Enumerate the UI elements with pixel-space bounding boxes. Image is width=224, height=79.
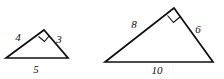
small-triangle-base-label: 5 xyxy=(33,63,39,75)
small-triangle: 4 3 5 xyxy=(6,30,68,75)
large-triangle-left-leg-label: 8 xyxy=(131,18,137,30)
small-triangle-left-leg-label: 4 xyxy=(15,31,21,43)
large-triangle-right-angle-icon xyxy=(168,16,181,23)
small-triangle-right-leg-label: 3 xyxy=(55,33,62,45)
geometry-figure: 4 3 5 8 6 10 xyxy=(0,0,224,79)
small-triangle-right-angle-icon xyxy=(39,36,50,42)
large-triangle: 8 6 10 xyxy=(105,8,213,76)
large-triangle-base-label: 10 xyxy=(152,64,164,76)
large-triangle-outline xyxy=(105,8,213,62)
figure-canvas: 4 3 5 8 6 10 xyxy=(0,0,224,79)
large-triangle-right-leg-label: 6 xyxy=(195,23,201,35)
